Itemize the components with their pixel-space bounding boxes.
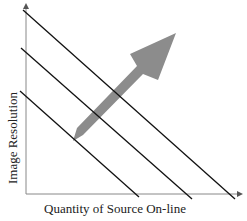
diagram: Image Resolution Quantity of Source On-l… [0,0,247,221]
diagram-canvas [0,0,247,221]
iso-line-2 [21,48,192,199]
x-axis-label: Quantity of Source On-line [40,201,190,217]
iso-line-3 [20,91,139,197]
iso-line-1 [23,10,235,199]
improvement-arrow-icon [73,33,176,141]
y-axis-label: Image Resolution [5,73,21,203]
